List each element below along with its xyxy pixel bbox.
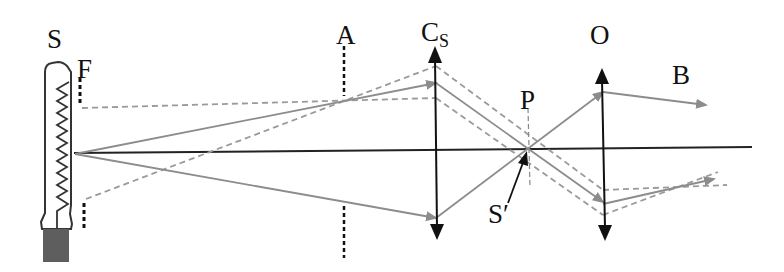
label-filter: F bbox=[77, 56, 92, 83]
label-beam: B bbox=[672, 62, 690, 89]
label-aperture: A bbox=[336, 22, 356, 49]
lens-top-arrow-icon bbox=[595, 68, 609, 84]
optics-diagram: S F A CS P S′ O B bbox=[0, 0, 784, 272]
condenser-lens bbox=[428, 46, 444, 240]
label-plane: P bbox=[520, 87, 535, 114]
lens-bottom-arrow-icon bbox=[430, 224, 444, 240]
label-objective: O bbox=[590, 22, 610, 49]
label-image: S′ bbox=[488, 201, 509, 228]
label-condenser-sub: S bbox=[439, 31, 449, 51]
diagram-canvas bbox=[0, 0, 784, 272]
label-condenser-main: C bbox=[421, 17, 439, 47]
label-condenser: CS bbox=[421, 19, 449, 50]
image-pointer bbox=[508, 151, 528, 203]
lamp-bulb-icon bbox=[41, 62, 72, 262]
lamp-base bbox=[43, 229, 69, 262]
lens-bottom-arrow-icon bbox=[598, 225, 612, 241]
label-source: S bbox=[47, 26, 62, 53]
optical-axis bbox=[74, 147, 752, 153]
